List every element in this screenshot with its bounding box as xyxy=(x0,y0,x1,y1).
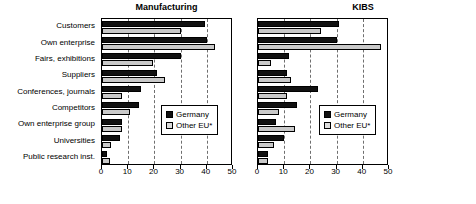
legend-swatch-other-eu xyxy=(324,122,331,129)
bar-group xyxy=(258,52,389,68)
bar-germany xyxy=(102,21,205,27)
bar-group xyxy=(102,84,233,100)
legend-item-germany: Germany xyxy=(166,109,212,120)
bar-other-eu xyxy=(102,60,153,66)
bar-germany xyxy=(258,102,297,108)
bar-germany xyxy=(258,119,276,125)
value-axis-labels-manufacturing: 01020304050 xyxy=(101,167,232,181)
bar-other-eu xyxy=(258,28,321,34)
tick-mark xyxy=(309,165,310,169)
bar-group xyxy=(258,35,389,51)
bar-group xyxy=(258,19,389,35)
bar-germany xyxy=(258,151,268,157)
panel-kibs: KIBS 01020304050 Germany Other EU* xyxy=(238,0,476,204)
bar-other-eu xyxy=(258,109,279,115)
tick-mark xyxy=(206,165,207,169)
tick-mark xyxy=(101,165,102,169)
bar-germany xyxy=(258,21,339,27)
tick-mark xyxy=(388,165,389,169)
bar-germany xyxy=(258,70,287,76)
bar-other-eu xyxy=(258,44,381,50)
chart-figure: Manufacturing CustomersOwn enterpriseFai… xyxy=(0,0,476,204)
bar-other-eu xyxy=(102,158,110,164)
bar-group xyxy=(258,133,389,149)
bar-group xyxy=(258,68,389,84)
tick-mark xyxy=(336,165,337,169)
category-label: Public research inst. xyxy=(23,152,95,161)
bar-group xyxy=(102,52,233,68)
bar-other-eu xyxy=(258,126,295,132)
category-axis-labels: CustomersOwn enterpriseFairs, exhibition… xyxy=(0,18,97,165)
bar-group xyxy=(258,150,389,166)
bar-group xyxy=(102,19,233,35)
bar-other-eu xyxy=(102,109,130,115)
bar-germany xyxy=(258,37,337,43)
bar-germany xyxy=(102,119,122,125)
bar-other-eu xyxy=(258,142,274,148)
panel-title-manufacturing: Manufacturing xyxy=(101,2,232,12)
tick-mark xyxy=(180,165,181,169)
tick-mark xyxy=(232,165,233,169)
legend-label-germany: Germany xyxy=(334,110,367,119)
legend-item-germany: Germany xyxy=(324,109,370,120)
legend-label-other-eu: Other EU* xyxy=(334,121,370,130)
bar-other-eu xyxy=(258,93,287,99)
bar-other-eu xyxy=(258,60,271,66)
bar-other-eu xyxy=(258,77,291,83)
bar-other-eu xyxy=(102,77,165,83)
category-label: Universities xyxy=(54,136,95,145)
bar-group xyxy=(258,84,389,100)
bar-group xyxy=(102,35,233,51)
legend-swatch-germany xyxy=(324,111,331,118)
legend-manufacturing: Germany Other EU* xyxy=(161,105,218,135)
bar-germany xyxy=(102,37,207,43)
category-label: Customers xyxy=(56,21,95,30)
tick-mark xyxy=(362,165,363,169)
plot-area-manufacturing xyxy=(101,18,232,165)
legend-item-other-eu: Other EU* xyxy=(324,120,370,131)
bar-other-eu xyxy=(102,44,215,50)
bar-group xyxy=(102,150,233,166)
legend-label-other-eu: Other EU* xyxy=(176,121,212,130)
bar-other-eu xyxy=(102,126,122,132)
bar-germany xyxy=(102,53,181,59)
category-label: Conferences, journals xyxy=(17,87,95,96)
legend-kibs: Germany Other EU* xyxy=(319,105,376,135)
tick-mark xyxy=(127,165,128,169)
bar-other-eu xyxy=(258,158,268,164)
panel-manufacturing: Manufacturing CustomersOwn enterpriseFai… xyxy=(0,0,238,204)
category-label: Competitors xyxy=(52,103,95,112)
tick-mark xyxy=(153,165,154,169)
tick-mark xyxy=(257,165,258,169)
bar-germany xyxy=(258,135,284,141)
bar-germany xyxy=(102,70,157,76)
plot-area-kibs xyxy=(257,18,388,165)
bar-other-eu xyxy=(102,28,181,34)
legend-swatch-germany xyxy=(166,111,173,118)
tick-mark xyxy=(283,165,284,169)
category-label: Own enterprise xyxy=(41,38,95,47)
legend-swatch-other-eu xyxy=(166,122,173,129)
bar-germany xyxy=(102,86,141,92)
category-label: Fairs, exhibitions xyxy=(35,54,95,63)
bar-germany xyxy=(102,151,107,157)
bar-other-eu xyxy=(102,142,111,148)
bar-germany xyxy=(102,135,120,141)
bar-germany xyxy=(102,102,139,108)
bar-group xyxy=(102,68,233,84)
bar-group xyxy=(102,133,233,149)
bar-germany xyxy=(258,86,318,92)
category-label: Own enterprise group xyxy=(18,119,95,128)
legend-label-germany: Germany xyxy=(176,110,209,119)
bar-other-eu xyxy=(102,93,122,99)
value-axis-labels-kibs: 01020304050 xyxy=(257,167,388,181)
panel-title-kibs: KIBS xyxy=(258,2,468,12)
legend-item-other-eu: Other EU* xyxy=(166,120,212,131)
bar-germany xyxy=(258,53,289,59)
category-label: Suppliers xyxy=(62,70,95,79)
